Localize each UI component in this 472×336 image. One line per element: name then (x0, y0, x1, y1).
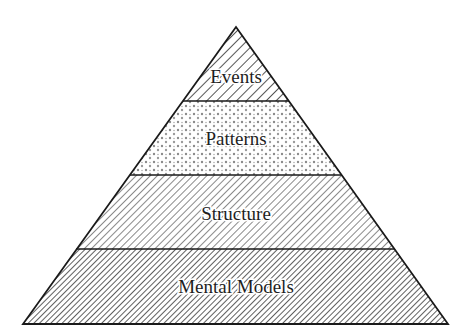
layer-events (183, 27, 289, 101)
label-events: Events (210, 66, 262, 87)
label-structure: Structure (201, 203, 271, 224)
pyramid-diagram: Events Patterns Structure Mental Models (0, 0, 472, 336)
label-mental-models: Mental Models (178, 276, 294, 297)
label-patterns: Patterns (205, 128, 266, 149)
